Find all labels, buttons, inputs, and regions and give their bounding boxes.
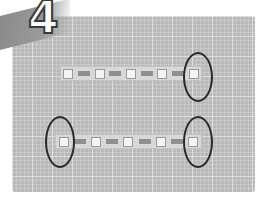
- resistor: [139, 139, 151, 144]
- resistor: [109, 71, 121, 76]
- led-chip: [126, 69, 136, 79]
- lower-left-circle: [45, 116, 75, 168]
- led-chip: [63, 69, 73, 79]
- resistor: [141, 71, 153, 76]
- resistor: [106, 139, 118, 144]
- lower-led-strip: [55, 134, 202, 149]
- lower-right-circle: [183, 116, 213, 168]
- step-number: 4: [28, 0, 59, 40]
- led-chip: [91, 137, 101, 147]
- resistor: [171, 139, 183, 144]
- led-chip: [156, 137, 166, 147]
- upper-right-circle: [183, 52, 213, 102]
- resistor: [78, 71, 90, 76]
- led-chip: [95, 69, 105, 79]
- upper-led-strip: [60, 66, 202, 81]
- resistor: [74, 139, 86, 144]
- led-chip: [123, 137, 133, 147]
- led-chip: [157, 69, 167, 79]
